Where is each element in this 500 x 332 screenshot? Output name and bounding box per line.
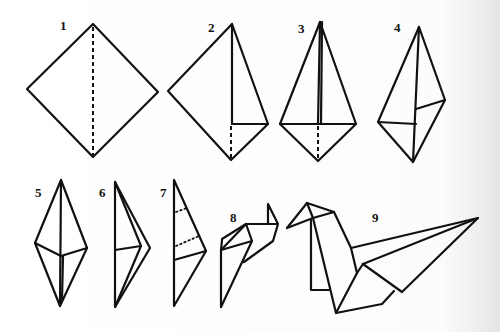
step-1-figure: 1 xyxy=(27,18,158,157)
step-5-figure: 5 xyxy=(35,180,87,306)
diagram-svg: 1 2 3 4 5 6 xyxy=(0,0,500,332)
step-5-number: 5 xyxy=(35,185,42,200)
step-6-figure: 6 xyxy=(99,182,150,307)
step-6-number: 6 xyxy=(99,185,106,200)
step-9-number: 9 xyxy=(372,210,379,225)
step-3-number: 3 xyxy=(298,21,305,36)
step-2-number: 2 xyxy=(208,20,215,35)
step-3-figure: 3 xyxy=(280,21,356,161)
origami-diagram: 1 2 3 4 5 6 xyxy=(0,0,500,332)
step-7-number: 7 xyxy=(160,185,167,200)
step-4-figure: 4 xyxy=(378,20,445,162)
step-4-number: 4 xyxy=(394,20,401,35)
step-9-figure: 9 xyxy=(287,203,478,313)
step-7-figure: 7 xyxy=(160,180,206,306)
step-1-number: 1 xyxy=(60,18,67,33)
step-8-figure: 8 xyxy=(221,204,278,307)
step-8-number: 8 xyxy=(230,210,237,225)
step-2-figure: 2 xyxy=(168,20,268,160)
